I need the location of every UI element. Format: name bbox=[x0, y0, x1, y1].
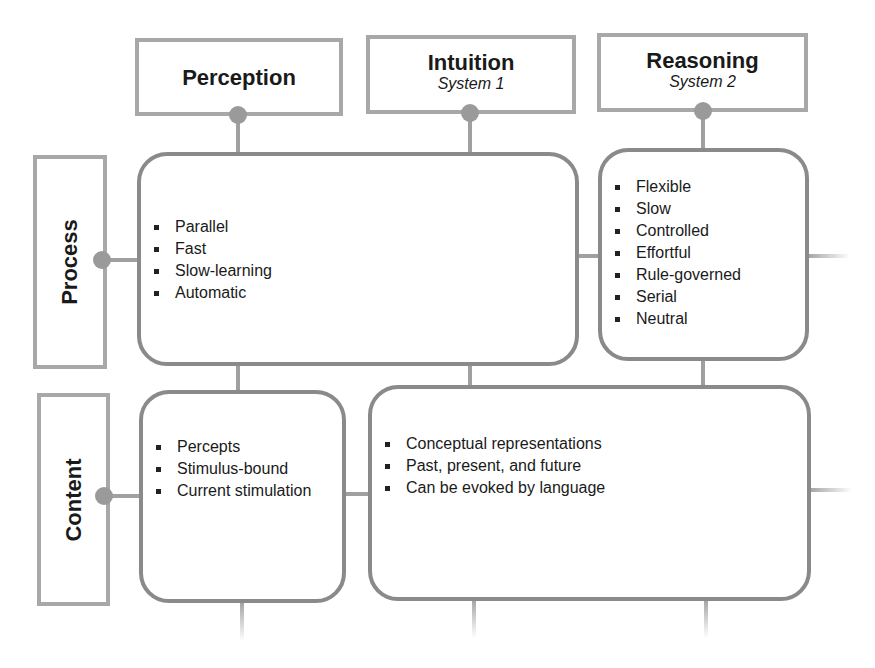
column-title: Perception bbox=[139, 66, 339, 90]
connector-dot bbox=[93, 251, 111, 269]
list-item: Current stimulation bbox=[153, 480, 311, 502]
connector bbox=[701, 358, 705, 388]
connector bbox=[240, 601, 244, 641]
bullet-list: Parallel Fast Slow-learning Automatic bbox=[151, 216, 272, 304]
column-title: Intuition bbox=[370, 51, 572, 75]
row-title: Process bbox=[57, 219, 83, 305]
column-header-intuition: Intuition System 1 bbox=[366, 35, 576, 114]
list-item: Slow bbox=[612, 198, 741, 220]
connector bbox=[576, 254, 600, 258]
connector-dot bbox=[229, 106, 247, 124]
list-item: Conceptual representations bbox=[382, 433, 605, 455]
list-item: Can be evoked by language bbox=[382, 477, 605, 499]
connector bbox=[808, 488, 852, 492]
connector bbox=[472, 598, 476, 638]
list-item: Stimulus-bound bbox=[153, 458, 311, 480]
list-item: Effortful bbox=[612, 242, 741, 264]
column-subtitle: System 2 bbox=[601, 73, 804, 91]
cell-content-perception: Percepts Stimulus-bound Current stimulat… bbox=[139, 390, 346, 603]
cell-process-system2: Flexible Slow Controlled Effortful Rule-… bbox=[598, 148, 809, 361]
connector bbox=[806, 254, 850, 258]
connector-dot bbox=[694, 102, 712, 120]
column-subtitle: System 1 bbox=[370, 75, 572, 93]
cell-content-system1-system2: Conceptual representations Past, present… bbox=[368, 385, 811, 601]
row-title: Content bbox=[61, 458, 87, 541]
connector-dot bbox=[95, 487, 113, 505]
list-item: Neutral bbox=[612, 308, 741, 330]
connector bbox=[236, 364, 240, 392]
connector bbox=[704, 598, 708, 638]
column-title: Reasoning bbox=[601, 49, 804, 73]
connector bbox=[343, 492, 371, 496]
list-item: Controlled bbox=[612, 220, 741, 242]
list-item: Percepts bbox=[153, 436, 311, 458]
cell-process-system1: Parallel Fast Slow-learning Automatic bbox=[137, 152, 579, 366]
bullet-list: Conceptual representations Past, present… bbox=[382, 433, 605, 499]
list-item: Automatic bbox=[151, 282, 272, 304]
list-item: Past, present, and future bbox=[382, 455, 605, 477]
list-item: Parallel bbox=[151, 216, 272, 238]
list-item: Rule-governed bbox=[612, 264, 741, 286]
connector-dot bbox=[461, 104, 479, 122]
bullet-list: Flexible Slow Controlled Effortful Rule-… bbox=[612, 176, 741, 330]
list-item: Serial bbox=[612, 286, 741, 308]
list-item: Fast bbox=[151, 238, 272, 260]
column-header-reasoning: Reasoning System 2 bbox=[597, 33, 808, 112]
list-item: Flexible bbox=[612, 176, 741, 198]
bullet-list: Percepts Stimulus-bound Current stimulat… bbox=[153, 436, 311, 502]
list-item: Slow-learning bbox=[151, 260, 272, 282]
column-header-perception: Perception bbox=[135, 38, 343, 116]
